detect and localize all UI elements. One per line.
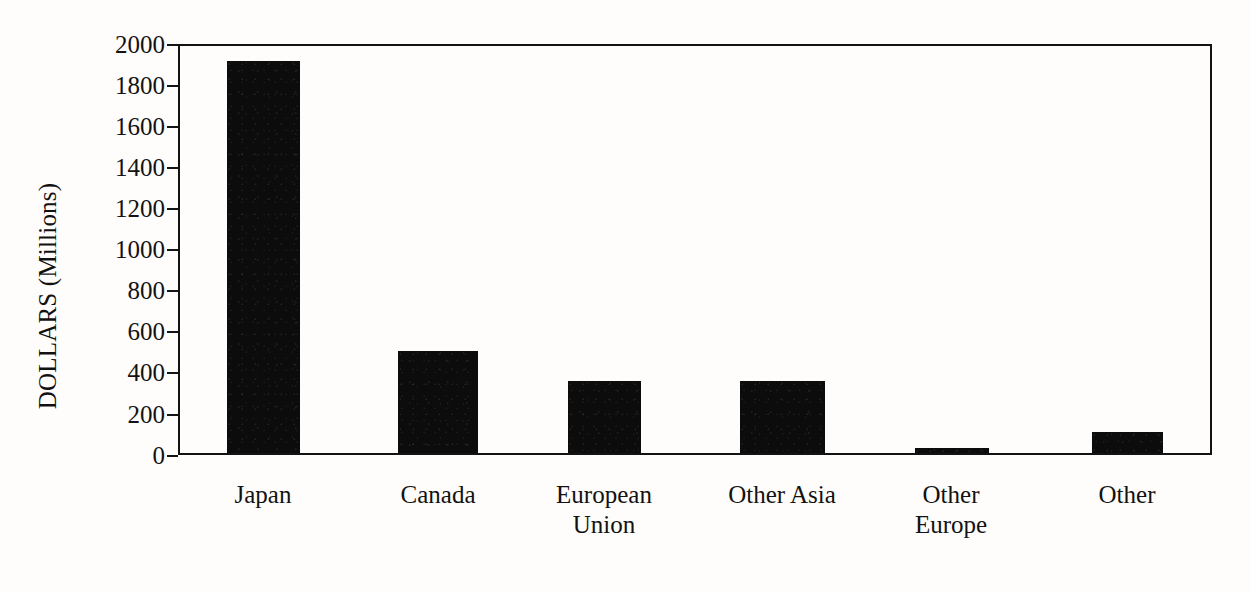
y-tick-mark <box>167 372 178 374</box>
plot-area <box>178 44 1212 455</box>
y-tick-mark <box>167 44 178 46</box>
y-axis-title: DOLLARS (Millions) <box>28 0 68 592</box>
x-axis-label-other-asia: Other Asia <box>702 480 862 510</box>
bar-other-europe <box>915 448 989 453</box>
y-tick-mark <box>167 414 178 416</box>
bar-european-union <box>568 381 641 453</box>
y-tick-mark <box>167 85 178 87</box>
bar-other <box>1092 432 1163 453</box>
y-tick-label: 1800 <box>72 73 178 98</box>
y-tick-mark <box>167 167 178 169</box>
y-tick-label: 1200 <box>72 196 178 221</box>
y-tick-label: 800 <box>72 278 178 303</box>
y-tick-mark <box>167 455 178 457</box>
y-tick-label: 600 <box>72 319 178 344</box>
x-axis-label-canada: Canada <box>358 480 518 510</box>
bar-canada <box>398 351 478 453</box>
y-tick-label: 400 <box>72 360 178 385</box>
y-tick-label: 200 <box>72 402 178 427</box>
y-tick-mark <box>167 290 178 292</box>
y-tick-mark <box>167 331 178 333</box>
y-axis-tick-labels: 2000 1800 1600 1400 1200 1000 800 600 40… <box>72 0 178 592</box>
y-tick-mark <box>167 208 178 210</box>
y-tick-label: 1600 <box>72 114 178 139</box>
x-axis-label-japan: Japan <box>183 480 343 510</box>
y-tick-mark <box>167 249 178 251</box>
x-axis-label-other-europe: Other Europe <box>871 480 1031 540</box>
bar-other-asia <box>740 381 825 453</box>
x-axis-label-other: Other <box>1047 480 1207 510</box>
x-axis-label-european-union: European Union <box>524 480 684 540</box>
y-tick-label: 1000 <box>72 237 178 262</box>
bar-chart: DOLLARS (Millions) 2000 1800 1600 1400 1… <box>0 0 1251 592</box>
y-tick-label: 0 <box>72 443 178 468</box>
bar-japan <box>227 61 300 453</box>
y-tick-label: 2000 <box>72 32 178 57</box>
y-tick-label: 1400 <box>72 155 178 180</box>
y-tick-mark <box>167 126 178 128</box>
